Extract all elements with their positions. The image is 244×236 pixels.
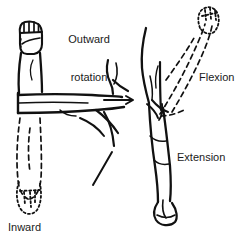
- label-outward-rotation: Outward rotation: [61, 8, 117, 108]
- solid-forearm: [19, 53, 42, 93]
- label-extension: Extension: [177, 151, 225, 164]
- raised-fist: [20, 22, 42, 54]
- dashed-flexion-arm: [160, 24, 212, 116]
- solid-upper-arm-right: [160, 62, 161, 110]
- range-of-motion-figure: Outward rotation Inward rotation Flexion…: [0, 0, 244, 236]
- torso-outline-right: [142, 28, 153, 103]
- label-flexion: Flexion: [199, 71, 234, 84]
- dashed-inward-forearm: [17, 118, 41, 199]
- label-outward-rotation-line1: Outward: [61, 33, 117, 46]
- label-outward-rotation-line2: rotation: [61, 71, 117, 84]
- dotted-raised-hand: [198, 7, 218, 33]
- label-inward-rotation: Inward rotation: [8, 196, 70, 236]
- label-inward-rotation-line1: Inward: [8, 221, 70, 234]
- extended-hand: [154, 200, 176, 225]
- lower-leg-tick: [93, 152, 112, 185]
- flexion-extension-panel-group: [142, 7, 219, 225]
- upper-arm-crease-right: [156, 66, 158, 88]
